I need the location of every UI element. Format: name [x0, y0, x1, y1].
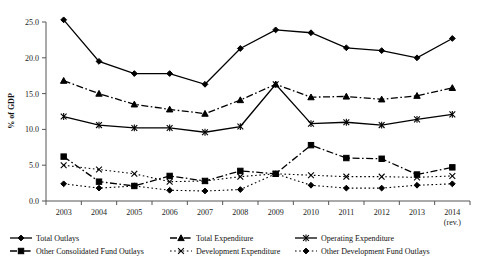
x-tick-label: 2007 [197, 208, 213, 217]
data-point-marker [167, 173, 172, 178]
data-point-marker [379, 174, 385, 180]
data-point-marker [96, 185, 102, 191]
data-point-marker [343, 185, 349, 191]
data-point-marker [167, 71, 173, 77]
legend-label: Other Development Fund Outlays [321, 247, 430, 256]
data-point-marker [343, 45, 349, 51]
x-tick-label: 2005 [126, 208, 142, 217]
data-point-marker [308, 172, 314, 178]
legend-item: Other Development Fund Outlays [295, 247, 430, 256]
data-point-marker [61, 181, 67, 187]
legend-marker [18, 235, 24, 241]
data-point-marker [96, 90, 102, 96]
data-point-marker [343, 93, 349, 99]
legend-label: Operating Expenditure [321, 234, 395, 243]
series-total-outlays [61, 17, 455, 87]
legend-item: Other Consolidated Fund Outlays [10, 247, 144, 256]
data-point-marker [237, 97, 243, 103]
gdp-outlays-line-chart: % of GDP 0.05.010.015.020.025.0 20032004… [0, 0, 481, 266]
chart-container: % of GDP 0.05.010.015.020.025.0 20032004… [0, 0, 481, 266]
data-point-marker [308, 182, 314, 188]
legend-label: Development Expenditure [196, 247, 281, 256]
data-point-marker [449, 181, 455, 187]
data-point-marker [238, 168, 243, 173]
x-tick-label: 2009 [268, 208, 284, 217]
legend-item: Operating Expenditure [295, 234, 395, 243]
legend-item: Total Outlays [10, 234, 79, 243]
data-point-marker [449, 85, 455, 91]
data-point-marker [379, 48, 385, 54]
data-point-marker [414, 172, 419, 177]
series-line [64, 165, 453, 181]
legend-marker [178, 235, 184, 241]
y-tick-label: 15.0 [25, 90, 39, 99]
x-tick-sublabel: (rev.) [444, 218, 461, 227]
y-axis-ticks: 0.05.010.015.020.025.0 [25, 18, 46, 206]
legend-label: Other Consolidated Fund Outlays [36, 247, 144, 256]
data-point-marker [60, 78, 66, 84]
y-tick-label: 10.0 [25, 125, 39, 134]
data-point-marker [202, 188, 208, 194]
series-line [64, 20, 453, 84]
data-point-marker [379, 156, 384, 161]
data-point-marker [96, 179, 101, 184]
series-other-consolidated-fund-outlays [61, 142, 455, 188]
chart-legend: Total OutlaysTotal ExpenditureOperating … [10, 234, 430, 256]
data-point-marker [237, 187, 243, 193]
y-tick-label: 0.0 [29, 197, 39, 206]
y-axis-title: % of GDP [7, 93, 16, 129]
data-point-marker [61, 162, 67, 168]
data-point-marker [131, 71, 137, 77]
legend-marker [18, 248, 23, 253]
y-tick-label: 25.0 [25, 18, 39, 27]
x-tick-label: 2011 [338, 208, 354, 217]
series-operating-expenditure [61, 81, 455, 136]
data-point-marker [414, 182, 420, 188]
data-point-marker [379, 185, 385, 191]
data-point-marker [273, 27, 279, 33]
data-point-marker [449, 173, 455, 179]
data-point-marker [308, 142, 313, 147]
data-point-marker [414, 55, 420, 61]
series-line [64, 84, 453, 132]
x-tick-label: 2008 [232, 208, 248, 217]
data-point-marker [237, 174, 243, 180]
x-tick-label: 2013 [409, 208, 425, 217]
x-axis-ticks: 2003200420052006200720082009201020112012… [46, 201, 470, 227]
data-point-marker [450, 165, 455, 170]
x-tick-label: 2010 [303, 208, 319, 217]
legend-marker [303, 248, 309, 254]
legend-item: Total Expenditure [170, 234, 254, 243]
series-other-development-fund-outlays [61, 171, 455, 194]
legend-label: Total Expenditure [196, 234, 254, 243]
legend-item: Development Expenditure [170, 247, 281, 256]
series-layer [60, 17, 455, 194]
data-point-marker [308, 30, 314, 36]
series-line [64, 145, 453, 186]
series-line [64, 81, 453, 114]
y-tick-label: 5.0 [29, 161, 39, 170]
data-point-marker [61, 154, 66, 159]
data-point-marker [202, 110, 208, 116]
series-total-expenditure [60, 78, 455, 117]
data-point-marker [96, 167, 102, 173]
x-tick-label: 2003 [56, 208, 72, 217]
data-point-marker [167, 187, 173, 193]
data-point-marker [131, 171, 137, 177]
data-point-marker [449, 36, 455, 42]
x-tick-label: 2014 [444, 208, 460, 217]
x-tick-label: 2012 [374, 208, 390, 217]
y-tick-label: 20.0 [25, 54, 39, 63]
x-tick-label: 2006 [162, 208, 178, 217]
legend-label: Total Outlays [36, 234, 79, 243]
data-point-marker [344, 155, 349, 160]
x-tick-label: 2004 [91, 208, 107, 217]
y-axis-label: % of GDP [7, 93, 16, 129]
